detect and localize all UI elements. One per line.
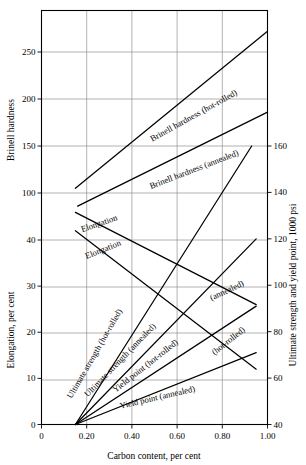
tick-label-brinell: 200 [22,94,36,104]
tick-label-psi: 100 [274,280,288,290]
tick-label-psi: 60 [274,373,284,383]
tick-label-brinell: 250 [22,47,36,57]
chart-svg: 2502001501004030201001601401201008060400… [0,0,306,465]
tick-label-carbon: 0.20 [79,431,95,441]
tick-label-psi: 120 [274,234,288,244]
tick-label-psi: 140 [274,187,288,197]
tick-label-elongation: 0 [31,420,36,430]
tick-label-elongation: 10 [27,373,37,383]
left-lower-axis-title: Elongation, per cent [6,291,16,368]
tick-label-carbon: 1.00 [260,431,276,441]
tick-label-psi: 80 [274,327,284,337]
left-upper-axis-title: Brinell hardness [6,99,16,161]
tick-label-elongation: 40 [27,235,37,245]
tick-label-psi: 40 [274,420,284,430]
tick-label-carbon: 0.60 [169,431,185,441]
tick-label-elongation: 20 [27,327,37,337]
tick-label-brinell: 150 [22,141,36,151]
tick-label-psi: 160 [274,141,288,151]
tick-label-carbon: 0.40 [124,431,140,441]
tick-label-carbon: 0.80 [214,431,230,441]
tick-label-carbon: 0 [39,431,44,441]
tick-label-brinell: 100 [22,188,36,198]
chart-figure: 2502001501004030201001601401201008060400… [0,0,306,465]
right-axis-title: Ultimate strength and yield point, 1000 … [288,203,298,366]
tick-label-elongation: 30 [27,281,37,291]
x-axis-title: Carbon content, per cent [107,451,201,461]
